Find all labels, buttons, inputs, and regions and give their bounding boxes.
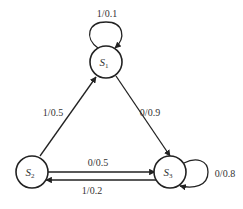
state-s3: S3	[154, 156, 186, 188]
state-s2: S2	[16, 156, 48, 188]
edge-label-s1-s1: 1/0.1	[97, 8, 117, 19]
edge-label-s2-s3: 0/0.5	[88, 157, 108, 168]
state-diagram: 1/0.1 1/0.5 0/0.9 0/0.5 1/0.2 0/0.8 S1 S…	[0, 0, 243, 209]
edge-label-s3-s3: 0/0.8	[215, 168, 235, 179]
edge-label-s1-s3: 0/0.9	[140, 107, 160, 118]
edge-s1-s1	[90, 22, 122, 48]
state-s1: S1	[90, 46, 122, 78]
edge-label-s3-s2: 1/0.2	[82, 185, 102, 196]
edge-label-s2-s1: 1/0.5	[43, 107, 63, 118]
